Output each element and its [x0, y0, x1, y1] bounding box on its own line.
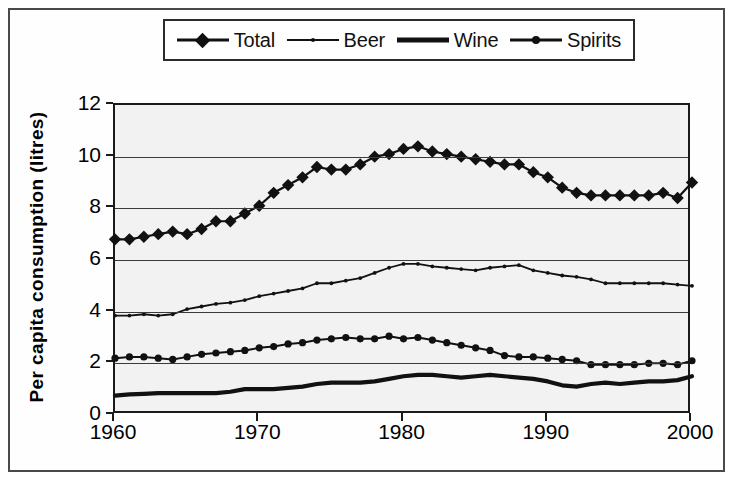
data-point — [195, 223, 207, 235]
gridline — [115, 363, 688, 364]
data-point — [128, 314, 132, 318]
x-tick-label: 2000 — [650, 420, 730, 444]
data-point — [618, 281, 622, 285]
y-tick-label: 12 — [55, 91, 101, 115]
data-point — [185, 307, 189, 311]
y-tick-label: 10 — [55, 143, 101, 167]
plot-area — [113, 103, 690, 413]
data-point — [357, 335, 364, 342]
data-point — [647, 281, 651, 285]
data-point — [282, 179, 294, 191]
data-point — [272, 292, 276, 296]
data-point — [614, 189, 626, 201]
data-point — [589, 277, 593, 281]
data-point — [443, 339, 450, 346]
data-point — [412, 140, 424, 152]
data-point — [329, 281, 333, 285]
y-tick-label: 2 — [55, 349, 101, 373]
data-point — [430, 265, 434, 269]
legend-label-total: Total — [234, 29, 275, 52]
data-point — [212, 349, 219, 356]
data-point — [325, 163, 337, 175]
data-point — [210, 215, 222, 227]
data-point — [214, 302, 218, 306]
gridline — [115, 208, 688, 209]
data-point — [387, 266, 391, 270]
data-point — [167, 225, 179, 237]
data-point — [458, 342, 465, 349]
data-point — [229, 301, 233, 305]
x-tick-label: 1980 — [362, 420, 442, 444]
y-tick-mark — [106, 102, 113, 104]
data-point — [111, 355, 118, 362]
data-point — [501, 352, 508, 359]
data-point — [503, 265, 507, 269]
data-point — [546, 271, 550, 275]
data-point — [474, 268, 478, 272]
data-point — [429, 336, 436, 343]
y-tick-mark — [106, 154, 113, 156]
data-point — [515, 353, 522, 360]
legend-entry-spirits: Spirits — [510, 29, 621, 52]
data-point — [200, 305, 204, 309]
data-point — [469, 153, 481, 165]
data-point — [486, 347, 493, 354]
data-point — [661, 281, 665, 285]
y-tick-mark — [106, 257, 113, 259]
data-point — [530, 353, 537, 360]
data-point — [517, 263, 521, 267]
data-point — [328, 335, 335, 342]
data-point — [227, 348, 234, 355]
data-point — [198, 351, 205, 358]
plot-inner — [115, 105, 688, 411]
data-point — [570, 187, 582, 199]
data-point — [599, 189, 611, 201]
diamond-marker-icon — [177, 32, 229, 48]
data-point — [171, 312, 175, 316]
data-point — [169, 356, 176, 363]
data-point — [344, 279, 348, 283]
x-tick-label: 1990 — [506, 420, 586, 444]
data-point — [616, 361, 623, 368]
data-point — [299, 339, 306, 346]
data-point — [531, 268, 535, 272]
legend-label-spirits: Spirits — [567, 29, 621, 52]
data-point — [270, 343, 277, 350]
data-point — [373, 271, 377, 275]
data-point — [340, 163, 352, 175]
data-point — [243, 298, 247, 302]
data-point — [559, 356, 566, 363]
y-tick-label: 6 — [55, 246, 101, 270]
data-point — [441, 148, 453, 160]
data-point — [241, 347, 248, 354]
data-point — [688, 357, 695, 364]
data-point — [257, 294, 261, 298]
data-point — [628, 189, 640, 201]
gridline — [115, 312, 688, 313]
data-point — [400, 335, 407, 342]
series-beer — [113, 262, 694, 317]
y-axis-title: Per capita consumption (litres) — [26, 102, 52, 412]
legend-label-wine: Wine — [454, 29, 499, 52]
gridline — [115, 260, 688, 261]
data-point — [142, 312, 146, 316]
x-tick-label: 1970 — [217, 420, 297, 444]
legend-label-beer: Beer — [344, 29, 385, 52]
data-point — [138, 231, 150, 243]
data-point — [632, 281, 636, 285]
y-tick-label: 8 — [55, 194, 101, 218]
gridline — [115, 157, 688, 158]
data-point — [498, 158, 510, 170]
y-tick-label: 4 — [55, 298, 101, 322]
data-point — [416, 262, 420, 266]
data-point — [414, 334, 421, 341]
data-point — [544, 355, 551, 362]
round-dot-marker-icon — [510, 32, 562, 48]
data-point — [383, 148, 395, 160]
data-point — [126, 353, 133, 360]
data-point — [513, 158, 525, 170]
data-point — [459, 267, 463, 271]
data-point — [674, 361, 681, 368]
data-point — [123, 233, 135, 245]
data-point — [155, 355, 162, 362]
